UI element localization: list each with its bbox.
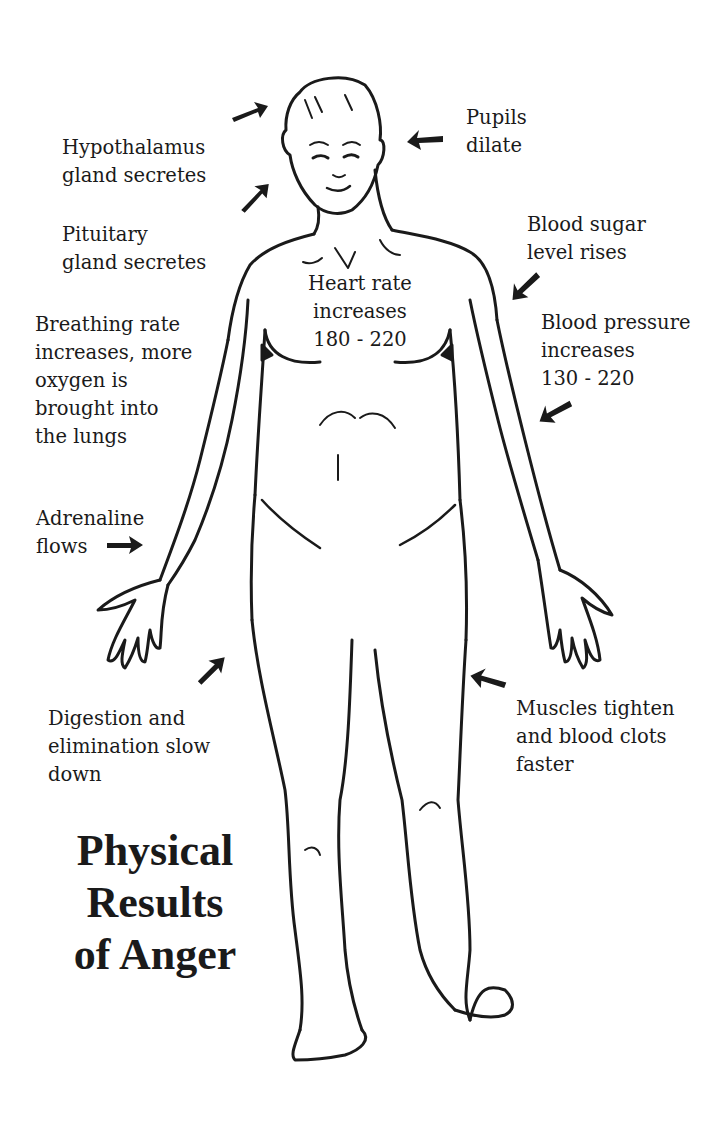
label-line: gland secretes — [62, 162, 206, 190]
label-line: faster — [516, 751, 675, 779]
label-line: Blood sugar — [527, 211, 646, 239]
label-breathing: Breathing rate increases, more oxygen is… — [35, 311, 192, 451]
label-line: gland secretes — [62, 249, 206, 277]
label-line: flows — [36, 533, 144, 561]
label-line: Muscles tighten — [516, 695, 675, 723]
label-adrenaline: Adrenaline flows — [36, 505, 144, 561]
label-pituitary: Pituitary gland secretes — [62, 221, 206, 277]
title-line: Results — [40, 877, 270, 929]
label-heart-rate: Heart rate increases 180 - 220 — [290, 270, 430, 354]
label-line: Pituitary — [62, 221, 206, 249]
label-line: the lungs — [35, 423, 192, 451]
label-line: and blood clots — [516, 723, 675, 751]
label-line: Blood pressure — [541, 309, 691, 337]
label-line: elimination slow — [48, 733, 210, 761]
label-line: Pupils — [466, 104, 527, 132]
title-line: Physical — [40, 825, 270, 877]
arrow-to-head-top-icon — [230, 100, 270, 124]
label-blood-sugar: Blood sugar level rises — [527, 211, 646, 267]
label-line: brought into — [35, 395, 192, 423]
label-line: Heart rate — [290, 270, 430, 298]
label-pupils: Pupils dilate — [466, 104, 527, 160]
label-blood-pressure: Blood pressure increases 130 - 220 — [541, 309, 691, 393]
label-line: 130 - 220 — [541, 365, 691, 393]
label-line: increases, more — [35, 339, 192, 367]
label-digestion: Digestion and elimination slow down — [48, 705, 210, 789]
label-hypothalamus: Hypothalamus gland secretes — [62, 134, 206, 190]
label-line: Adrenaline — [36, 505, 144, 533]
label-line: 180 - 220 — [290, 326, 430, 354]
diagram-title: Physical Results of Anger — [40, 825, 270, 981]
label-line: level rises — [527, 239, 646, 267]
label-line: increases — [541, 337, 691, 365]
label-line: Digestion and — [48, 705, 210, 733]
label-line: oxygen is — [35, 367, 192, 395]
label-muscles: Muscles tighten and blood clots faster — [516, 695, 675, 779]
title-line: of Anger — [40, 929, 270, 981]
label-line: dilate — [466, 132, 527, 160]
label-line: down — [48, 761, 210, 789]
label-line: Breathing rate — [35, 311, 192, 339]
label-line: increases — [290, 298, 430, 326]
arrow-to-eyes-icon — [405, 128, 445, 152]
label-line: Hypothalamus — [62, 134, 206, 162]
